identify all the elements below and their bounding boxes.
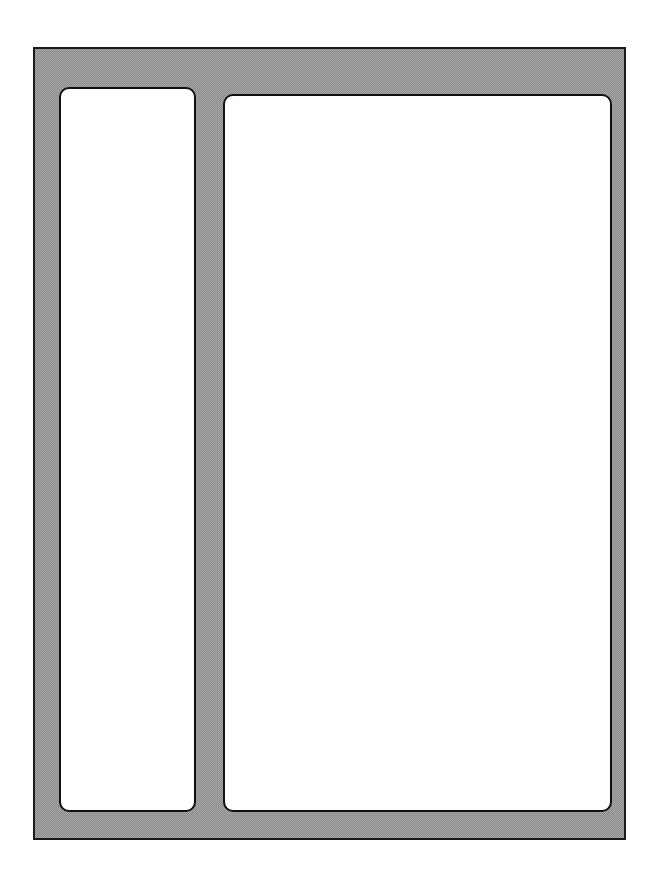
- left-sidebar-panel: [59, 87, 196, 812]
- diagram-canvas: [0, 0, 660, 880]
- outer-frame: [33, 47, 626, 840]
- right-main-panel: [223, 94, 612, 812]
